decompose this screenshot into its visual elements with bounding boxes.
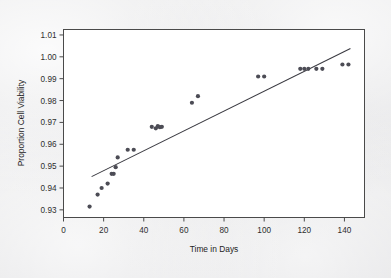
chart-screenshot: 0.930.940.950.960.970.980.991.001.01 020… [0,0,391,278]
plot-frame [64,30,365,218]
y-axis-title: Proportion Cell Viability [16,79,26,166]
x-axis-tick-labels: 020406080100120140 [61,226,351,235]
x-tick-label: 100 [257,226,271,235]
y-tick-label: 0.96 [41,140,57,149]
y-axis-ticks [60,35,64,210]
data-point [160,125,164,129]
data-point [96,192,100,196]
data-point [87,204,91,208]
y-tick-label: 1.01 [41,31,57,40]
y-tick-label: 0.93 [41,206,57,215]
y-tick-label: 0.95 [41,162,57,171]
data-point [346,62,350,66]
x-axis-ticks [64,218,345,222]
data-point [196,94,200,98]
data-point [298,67,302,71]
x-axis-title: Time in Days [190,244,239,254]
data-point [112,172,116,176]
x-tick-label: 120 [297,226,311,235]
data-point [190,101,194,105]
data-point [262,74,266,78]
x-tick-label: 20 [99,226,109,235]
y-axis-tick-labels: 0.930.940.950.960.970.980.991.001.01 [41,31,57,215]
y-tick-label: 0.94 [41,184,57,193]
y-tick-label: 0.98 [41,97,57,106]
data-point [132,148,136,152]
data-point [150,125,154,129]
data-point [256,74,260,78]
data-point [320,67,324,71]
data-point [114,165,118,169]
data-point [306,67,310,71]
chart-canvas: 0.930.940.950.960.970.980.991.001.01 020… [0,0,391,278]
x-tick-label: 80 [219,226,229,235]
y-tick-label: 0.97 [41,118,57,127]
x-tick-label: 40 [139,226,149,235]
data-point [302,67,306,71]
data-point [340,62,344,66]
data-point [126,148,130,152]
scatter-plot-figure: 0.930.940.950.960.970.980.991.001.01 020… [0,0,391,278]
data-point [100,186,104,190]
y-tick-label: 1.00 [41,53,57,62]
data-point [116,155,120,159]
x-tick-label: 0 [61,226,66,235]
x-tick-label: 60 [179,226,189,235]
y-tick-label: 0.99 [41,75,57,84]
data-point [106,182,110,186]
data-point [314,67,318,71]
x-tick-label: 140 [338,226,352,235]
